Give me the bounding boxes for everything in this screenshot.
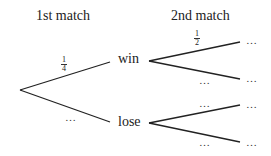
branch-win-lose [149,61,240,79]
node-win: win [118,52,139,66]
outcome-1: … [246,35,258,46]
header-first-match: 1st match [36,9,90,23]
node-lose: lose [118,115,141,129]
prob-win-lose: … [199,75,211,86]
branch-lose-lose [149,123,240,142]
outcome-2: … [246,73,258,84]
prob-first-win: 1 4 [61,56,67,73]
prob-win-win: 1 2 [194,30,200,47]
prob-lose-win: … [199,98,211,109]
prob-lose-lose: … [199,137,211,148]
header-second-match: 2nd match [171,9,230,23]
outcome-3: … [246,99,258,110]
prob-first-lose: … [65,112,77,123]
branch-lose-win [149,105,240,123]
outcome-4: … [246,137,258,148]
tree-lines [0,0,271,156]
